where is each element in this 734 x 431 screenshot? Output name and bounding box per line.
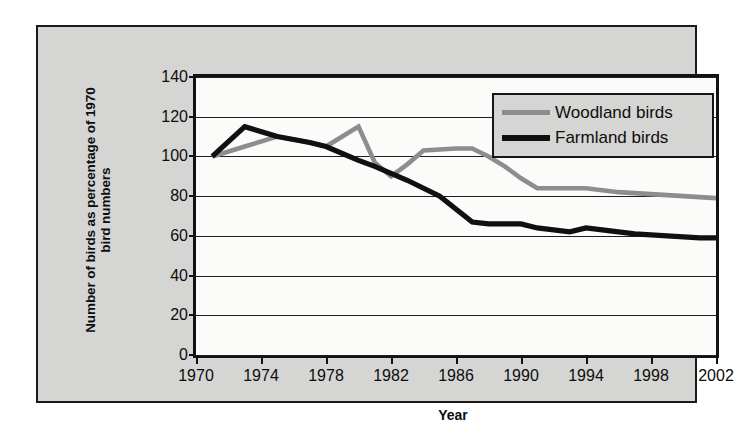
x-tick-label-1982: 1982 <box>373 367 409 385</box>
x-tick-label-2002: 2002 <box>698 367 734 385</box>
legend-label-farmland: Farmland birds <box>555 129 668 146</box>
y-tick-label-100: 100 <box>161 147 188 165</box>
y-tick-label-0: 0 <box>179 346 188 364</box>
x-tick-mark-1982 <box>391 355 393 364</box>
y-tick-label-20: 20 <box>170 306 188 324</box>
y-tick-mark-120 <box>189 116 196 118</box>
legend-line-swatch-farmland-icon <box>502 135 550 141</box>
legend-item-woodland-birds: Woodland birds <box>502 100 704 125</box>
x-tick-mark-1974 <box>261 355 263 364</box>
plot-area: 140120100806040200 197019741978198219861… <box>193 74 719 358</box>
x-tick-label-1990: 1990 <box>503 367 539 385</box>
y-tick-label-140: 140 <box>161 68 188 86</box>
y-tick-mark-100 <box>189 155 196 157</box>
y-tick-mark-0 <box>189 354 196 356</box>
x-tick-mark-1978 <box>326 355 328 364</box>
x-tick-mark-2002 <box>716 355 718 364</box>
y-tick-mark-80 <box>189 195 196 197</box>
x-axis-title: Year <box>193 407 713 423</box>
x-tick-mark-1986 <box>456 355 458 364</box>
y-axis-title: Number of birds as percentage of 1970 bi… <box>83 81 113 339</box>
x-tick-mark-1970 <box>196 355 198 364</box>
y-tick-mark-20 <box>189 314 196 316</box>
legend-item-farmland-birds: Farmland birds <box>502 125 704 150</box>
figure-frame: Number of birds as percentage of 1970 bi… <box>36 25 697 403</box>
x-tick-label-1994: 1994 <box>568 367 604 385</box>
x-tick-mark-1990 <box>521 355 523 364</box>
y-tick-mark-60 <box>189 235 196 237</box>
chart-legend: Woodland birds Farmland birds <box>492 93 714 158</box>
legend-label-woodland: Woodland birds <box>555 104 673 121</box>
y-tick-label-120: 120 <box>161 108 188 126</box>
x-tick-label-1970: 1970 <box>178 367 214 385</box>
y-tick-mark-140 <box>189 76 196 78</box>
x-tick-label-1974: 1974 <box>243 367 279 385</box>
y-tick-mark-40 <box>189 275 196 277</box>
x-tick-label-1978: 1978 <box>308 367 344 385</box>
y-tick-label-80: 80 <box>170 187 188 205</box>
y-tick-label-60: 60 <box>170 227 188 245</box>
x-tick-label-1986: 1986 <box>438 367 474 385</box>
x-tick-mark-1998 <box>651 355 653 364</box>
y-tick-label-40: 40 <box>170 267 188 285</box>
x-tick-label-1998: 1998 <box>633 367 669 385</box>
x-tick-mark-1994 <box>586 355 588 364</box>
y-axis-title-container: Number of birds as percentage of 1970 bi… <box>78 57 118 357</box>
legend-line-swatch-woodland-icon <box>502 110 550 115</box>
